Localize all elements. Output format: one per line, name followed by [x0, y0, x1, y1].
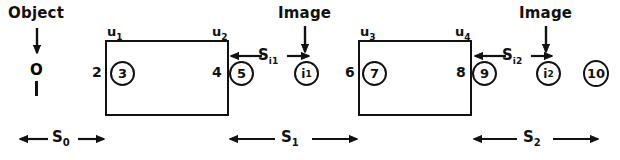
- circled-node-5-value: 5: [237, 66, 246, 81]
- image2-label: Image: [519, 6, 572, 21]
- surface-label-u1: u1: [107, 25, 123, 42]
- s0-distance-label: S0: [52, 130, 70, 148]
- si2-sub: i2: [513, 56, 522, 66]
- s2-base: S: [523, 128, 534, 146]
- s2-distance-label: S2: [523, 130, 541, 148]
- image1-label: Image: [278, 6, 331, 21]
- object-height-bar: [35, 81, 38, 96]
- surface-label-u4: u4: [455, 25, 471, 42]
- circled-node-3: 3: [110, 61, 135, 86]
- si1-distance-label: Si1: [258, 48, 278, 66]
- circled-node-10: 10: [583, 60, 609, 87]
- circled-node-i1-sub: 1: [305, 69, 311, 79]
- object-label: Object: [8, 6, 64, 21]
- circled-node-10-value: 10: [587, 66, 605, 81]
- circled-node-i2: i2: [536, 61, 561, 86]
- surface-label-u2: u2: [212, 25, 228, 42]
- circled-node-9: 9: [472, 61, 497, 86]
- circled-node-i1: i1: [294, 61, 319, 86]
- s1-base: S: [281, 128, 292, 146]
- node-2-label: 2: [92, 65, 102, 79]
- circled-node-3-value: 3: [118, 66, 127, 81]
- circled-node-i2-sub: 2: [547, 69, 553, 79]
- circled-node-5: 5: [229, 61, 254, 86]
- surface-label-u3: u3: [360, 25, 376, 42]
- s1-sub: 1: [292, 137, 299, 148]
- surface-u1-sub: 1: [116, 32, 122, 42]
- circled-node-7-value: 7: [370, 66, 379, 81]
- s0-base: S: [52, 128, 63, 146]
- surface-u4-base: u: [455, 24, 464, 39]
- si2-distance-label: Si2: [502, 48, 522, 66]
- node-4-label: 4: [212, 65, 222, 79]
- circled-node-7: 7: [362, 61, 387, 86]
- surface-u3-sub: 3: [369, 32, 375, 42]
- si2-base: S: [502, 46, 513, 64]
- surface-u1-base: u: [107, 24, 116, 39]
- object-point-label: O: [30, 61, 43, 79]
- surface-u4-sub: 4: [464, 32, 470, 42]
- optical-diagram-canvas: Object O u1 u2 2 3 4 5 Image Si1 i1 u3 u…: [0, 0, 620, 160]
- s1-distance-label: S1: [281, 130, 299, 148]
- node-8-label: 8: [456, 65, 466, 79]
- surface-u2-base: u: [212, 24, 221, 39]
- si1-sub: i1: [269, 56, 278, 66]
- s0-sub: 0: [63, 137, 70, 148]
- circled-node-9-value: 9: [480, 66, 489, 81]
- surface-u2-sub: 2: [221, 32, 227, 42]
- node-6-label: 6: [345, 65, 355, 79]
- si1-base: S: [258, 46, 269, 64]
- surface-u3-base: u: [360, 24, 369, 39]
- s2-sub: 2: [534, 137, 541, 148]
